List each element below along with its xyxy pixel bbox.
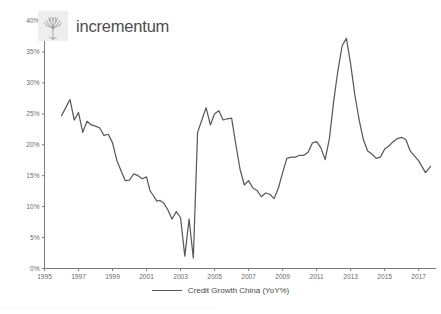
x-tick-label: 2007: [241, 273, 256, 280]
chart-figure: (YoY%) 0%5%10%15%20%25%30%35%40% 1995199…: [0, 0, 441, 314]
brand-name: incrementum: [76, 18, 169, 35]
y-tick-label: 10%: [26, 203, 39, 210]
series-line: [62, 38, 431, 258]
data-series-group: [62, 38, 431, 258]
x-tick-label: 1997: [71, 273, 86, 280]
legend-label: Credit Growth China (YoY%): [188, 286, 290, 295]
line-chart-plot: 0%5%10%15%20%25%30%35%40% 19951997199920…: [0, 0, 441, 314]
y-axis: 0%5%10%15%20%25%30%35%40%: [26, 17, 44, 272]
x-tick-label: 2017: [411, 273, 426, 280]
chart-legend: Credit Growth China (YoY%): [0, 286, 441, 295]
tree-icon-glyph: [40, 15, 66, 41]
x-tick-label: 1995: [37, 273, 52, 280]
y-tick-label: 20%: [26, 141, 39, 148]
x-tick-label: 2005: [207, 273, 222, 280]
y-tick-label: 35%: [26, 48, 39, 55]
legend-swatch: [152, 290, 182, 291]
x-tick-label: 2013: [343, 273, 358, 280]
x-tick-label: 2001: [139, 273, 154, 280]
x-tick-label: 2009: [275, 273, 290, 280]
x-tick-label: 2015: [377, 273, 392, 280]
y-tick-label: 0%: [30, 265, 40, 272]
x-tick-label: 1999: [105, 273, 120, 280]
x-axis: 1995199719992001200320052007200920112013…: [37, 269, 436, 281]
x-tick-label: 2003: [173, 273, 188, 280]
y-tick-label: 15%: [26, 172, 39, 179]
y-tick-label: 30%: [26, 79, 39, 86]
tree-icon: [38, 11, 68, 41]
y-tick-label: 5%: [30, 234, 40, 241]
y-tick-label: 25%: [26, 110, 39, 117]
x-tick-label: 2011: [310, 273, 325, 280]
brand-logo: incrementum: [38, 11, 169, 41]
